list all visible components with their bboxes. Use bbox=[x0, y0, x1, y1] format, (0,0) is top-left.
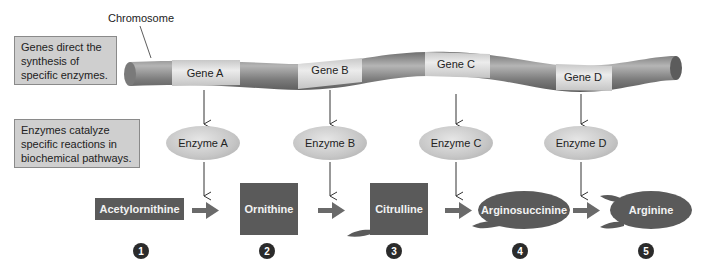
step-badge-5: 5 bbox=[638, 243, 654, 259]
molecule-acetylornithine: Acetylornithine bbox=[95, 198, 184, 220]
genes-note: Genes direct the synthesis of specific e… bbox=[14, 36, 117, 85]
gene-a-label: Gene A bbox=[187, 67, 224, 79]
step-badge-3: 3 bbox=[386, 243, 402, 259]
gene-d-label: Gene D bbox=[564, 71, 602, 83]
chromosome-label: Chromosome bbox=[108, 12, 174, 24]
molecule-citrulline: Citrulline bbox=[370, 183, 428, 235]
gene-b-label: Gene B bbox=[311, 64, 348, 76]
enzymes-note: Enzymes catalyze specific reactions in b… bbox=[14, 119, 140, 168]
step-badge-4: 4 bbox=[512, 243, 528, 259]
enzyme-a: Enzyme A bbox=[166, 126, 240, 160]
enzyme-b: Enzyme B bbox=[293, 126, 367, 160]
molecule-ornithine: Ornithine bbox=[240, 183, 298, 235]
enzyme-c: Enzyme C bbox=[419, 126, 493, 160]
chromosome-leader-line bbox=[140, 26, 151, 58]
molecule-arginosuccinine: Arginosuccinine bbox=[478, 191, 570, 229]
gene-c-label: Gene C bbox=[437, 58, 475, 70]
enzyme-d: Enzyme D bbox=[544, 126, 618, 160]
step-badge-2: 2 bbox=[259, 243, 275, 259]
step-badge-1: 1 bbox=[133, 243, 149, 259]
molecule-arginine: Arginine bbox=[610, 191, 692, 229]
